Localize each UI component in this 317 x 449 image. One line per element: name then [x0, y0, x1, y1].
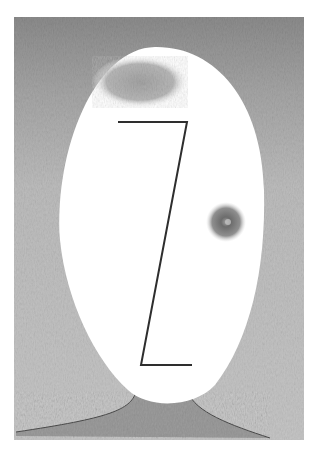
forehead-shading	[92, 56, 188, 108]
drawing	[0, 0, 317, 449]
artwork-canvas: Abstract pencil drawing of an egg-shaped…	[0, 0, 317, 449]
